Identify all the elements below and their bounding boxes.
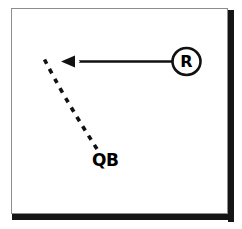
play-diagram: R QB <box>0 0 242 229</box>
quarterback-dashed-path <box>45 60 98 150</box>
route-arrow-line <box>61 56 172 68</box>
play-graphics <box>0 0 242 229</box>
receiver-label: R <box>172 48 201 76</box>
quarterback-label: QB <box>92 150 118 170</box>
